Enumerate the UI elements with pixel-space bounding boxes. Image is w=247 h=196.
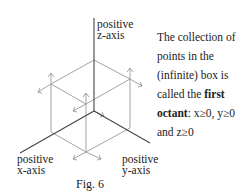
- x-axis-label: positivex-axis: [17, 154, 53, 176]
- figure-caption: Fig. 6: [76, 179, 104, 190]
- octant-description: The collection of points in the (infinit…: [157, 28, 247, 142]
- z-axis-label: positivez-axis: [97, 19, 133, 41]
- y-axis-label: positivey-axis: [122, 154, 158, 176]
- x-axis-line: [20, 111, 94, 153]
- y-axis-line: [94, 111, 150, 143]
